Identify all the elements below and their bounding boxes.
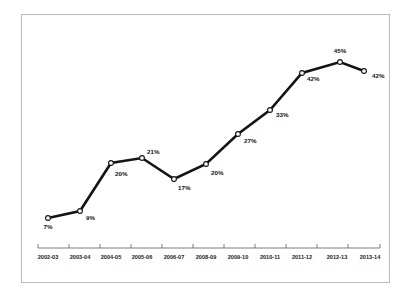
data-point-marker[interactable] bbox=[172, 177, 177, 182]
x-axis-tick-label: 2006-07 bbox=[164, 254, 185, 260]
x-axis-group bbox=[38, 244, 380, 248]
x-axis-tick-label: 2008-09 bbox=[196, 254, 217, 260]
data-value-label: 33% bbox=[276, 111, 289, 118]
data-value-label: 7% bbox=[44, 223, 53, 230]
x-axis-tick-label: 2003-04 bbox=[70, 254, 91, 260]
line-chart-canvas: 7% 9% 20% 21% 17% 20% 27% 33% 42% 45% 42… bbox=[0, 0, 412, 300]
data-point-marker[interactable] bbox=[236, 132, 241, 137]
data-point-marker[interactable] bbox=[268, 108, 273, 113]
data-point-marker[interactable] bbox=[338, 60, 343, 65]
data-point-marker[interactable] bbox=[140, 156, 145, 161]
data-value-label: 45% bbox=[334, 47, 347, 54]
data-value-label: 42% bbox=[307, 75, 320, 82]
x-axis-ticks bbox=[38, 244, 380, 248]
data-point-marker[interactable] bbox=[300, 71, 305, 76]
x-axis-tick-labels: 2002-03 2003-04 2004-05 2005-06 2006-07 … bbox=[38, 254, 381, 260]
data-value-label: 20% bbox=[115, 170, 128, 177]
data-point-marker[interactable] bbox=[46, 216, 51, 221]
data-value-label: 20% bbox=[211, 169, 224, 176]
x-axis-tick-label: 2010-11 bbox=[260, 254, 280, 260]
x-axis-tick-label: 2004-05 bbox=[101, 254, 122, 260]
data-value-label: 42% bbox=[372, 72, 385, 79]
x-axis-tick-label: 2009-10 bbox=[228, 254, 249, 260]
x-axis-tick-label: 2012-13 bbox=[327, 254, 348, 260]
data-value-label: 27% bbox=[244, 137, 257, 144]
data-point-marker[interactable] bbox=[362, 69, 367, 74]
x-axis-tick-label: 2013-14 bbox=[360, 254, 381, 260]
data-value-labels: 7% 9% 20% 21% 17% 20% 27% 33% 42% 45% 42… bbox=[44, 47, 385, 230]
data-value-label: 17% bbox=[178, 184, 191, 191]
data-point-marker[interactable] bbox=[204, 162, 209, 167]
x-axis-tick-label: 2002-03 bbox=[38, 254, 59, 260]
data-value-label: 9% bbox=[86, 214, 95, 221]
x-axis-tick-label: 2011-12 bbox=[292, 254, 312, 260]
x-axis-tick-label: 2005-06 bbox=[132, 254, 153, 260]
data-series-line bbox=[48, 62, 364, 218]
data-point-marker[interactable] bbox=[78, 209, 83, 214]
data-point-markers bbox=[46, 60, 367, 221]
data-point-marker[interactable] bbox=[109, 161, 114, 166]
chart-figure: 7% 9% 20% 21% 17% 20% 27% 33% 42% 45% 42… bbox=[0, 0, 412, 300]
data-value-label: 21% bbox=[147, 148, 160, 155]
